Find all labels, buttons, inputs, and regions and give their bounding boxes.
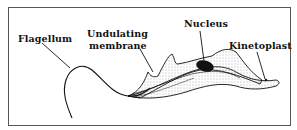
label-flagellum: Flagellum — [18, 33, 72, 44]
trypanosome-illustration — [0, 0, 297, 130]
kinetoplast-leader — [257, 52, 265, 79]
label-nucleus: Nucleus — [184, 18, 228, 29]
flagellum-leader — [42, 43, 70, 68]
label-membrane: membrane — [89, 40, 147, 51]
label-undulating: Undulating — [87, 28, 148, 39]
label-kinetoplast: Kinetoplast — [229, 40, 292, 51]
nucleus-leader — [200, 31, 204, 61]
kinetoplast-dot — [265, 79, 267, 81]
undulating-leader — [140, 49, 153, 72]
